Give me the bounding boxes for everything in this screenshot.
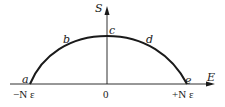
tick-right-label: +N ε xyxy=(172,89,194,100)
point-b-label: b xyxy=(63,34,70,45)
entropy-curve xyxy=(30,36,187,84)
point-c-label: c xyxy=(109,25,115,36)
y-axis-label: S xyxy=(95,3,103,14)
x-axis-label: E xyxy=(207,72,215,83)
point-a-label: a xyxy=(22,74,29,85)
tick-origin-label: 0 xyxy=(103,89,109,100)
point-e-label: e xyxy=(185,75,192,86)
y-axis-arrow-icon xyxy=(105,6,110,15)
entropy-energy-diagram: S E a b c d e −N ε 0 +N ε xyxy=(0,0,225,107)
tick-left-label: −N ε xyxy=(13,89,35,100)
point-d-label: d xyxy=(146,34,153,45)
